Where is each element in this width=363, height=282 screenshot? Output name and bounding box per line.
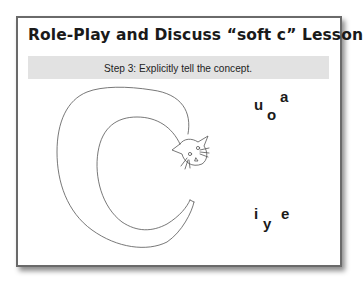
cat-letter-c-icon <box>32 82 232 262</box>
slide-title: Role-Play and Discuss “soft c” Lesson <box>28 26 363 44</box>
vowel-i: i <box>254 205 258 222</box>
step-text: Step 3: Explicitly tell the concept. <box>105 62 253 74</box>
vowel-e: e <box>281 205 289 222</box>
step-banner: Step 3: Explicitly tell the concept. <box>28 56 329 79</box>
lesson-slide: Role-Play and Discuss “soft c” Lesson St… <box>16 16 342 267</box>
vowel-y: y <box>263 215 271 232</box>
vowel-u: u <box>254 96 263 113</box>
vowel-a: a <box>280 88 288 105</box>
vowel-o: o <box>267 106 276 123</box>
